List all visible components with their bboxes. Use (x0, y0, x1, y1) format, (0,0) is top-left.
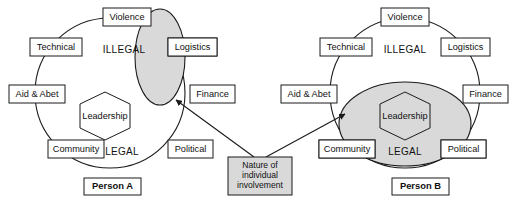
person-a-node-finance-box (190, 85, 235, 103)
person-b-legal-label: LEGAL (388, 146, 422, 157)
person-b-illegal-label: ILLEGAL (384, 44, 427, 55)
person-b-node-technical-box (320, 38, 372, 56)
person-b-node-political[interactable]: Political (441, 140, 486, 158)
person-a-node-logistics[interactable]: Logistics (168, 38, 217, 56)
person-a-node-violence[interactable]: Violence (103, 8, 151, 26)
person-b-node-community[interactable]: Community (319, 140, 375, 158)
person-b-node-aid-abet-box (281, 85, 337, 103)
person-b-node-finance-box (463, 85, 508, 103)
person-a-legal-label: LEGAL (105, 146, 139, 157)
person-a-node-community-box (48, 140, 104, 158)
person-b-core-label: Leadership (382, 111, 427, 121)
person-b-node-violence-box (381, 8, 429, 26)
person-b-node-technical[interactable]: Technical (320, 38, 372, 56)
person-a-node-community[interactable]: Community (48, 140, 104, 158)
diagram-root: Leadership ILLEGAL LEGAL Violence Logist… (0, 0, 520, 210)
diagram-canvas: Leadership ILLEGAL LEGAL Violence Logist… (0, 0, 520, 210)
person-a-group: Leadership ILLEGAL LEGAL Violence Logist… (9, 8, 235, 195)
person-b-node-aid-abet[interactable]: Aid & Abet (281, 85, 337, 103)
person-a-node-violence-box (103, 8, 151, 26)
person-a-node-finance[interactable]: Finance (190, 85, 235, 103)
person-b-node-community-outline (319, 140, 375, 158)
person-b-caption-label: Person B (400, 180, 441, 191)
callout-line-1: Nature of (242, 160, 278, 170)
person-b-node-finance[interactable]: Finance (463, 85, 508, 103)
person-b-caption: Person B (392, 178, 449, 195)
person-b-group: Leadership ILLEGAL LEGAL Violence Logist… (281, 8, 508, 195)
person-b-node-violence[interactable]: Violence (381, 8, 429, 26)
callout-line-2: individual (242, 170, 278, 180)
person-b-node-logistics[interactable]: Logistics (441, 38, 490, 56)
person-a-core-label: Leadership (82, 111, 127, 121)
person-b-node-political-outline (441, 140, 486, 158)
person-a-node-technical-box (30, 38, 82, 56)
person-a-node-logistics-outline (168, 38, 217, 56)
person-a-node-aid-abet[interactable]: Aid & Abet (9, 85, 65, 103)
person-a-node-political[interactable]: Political (168, 140, 213, 158)
person-a-caption-label: Person A (92, 180, 133, 191)
person-b-node-logistics-box (441, 38, 490, 56)
person-a-node-technical[interactable]: Technical (30, 38, 82, 56)
person-a-illegal-label: ILLEGAL (103, 44, 146, 55)
callout-line-3: involvement (237, 180, 283, 190)
person-a-node-aid-abet-box (9, 85, 65, 103)
person-a-node-political-box (168, 140, 213, 158)
person-a-caption: Person A (84, 178, 141, 195)
